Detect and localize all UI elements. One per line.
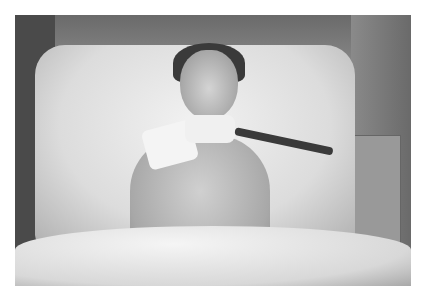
- patient-face: [180, 50, 238, 120]
- bed-sheet: [15, 226, 411, 286]
- hospital-photo: [15, 15, 411, 286]
- neck-collar: [185, 115, 235, 143]
